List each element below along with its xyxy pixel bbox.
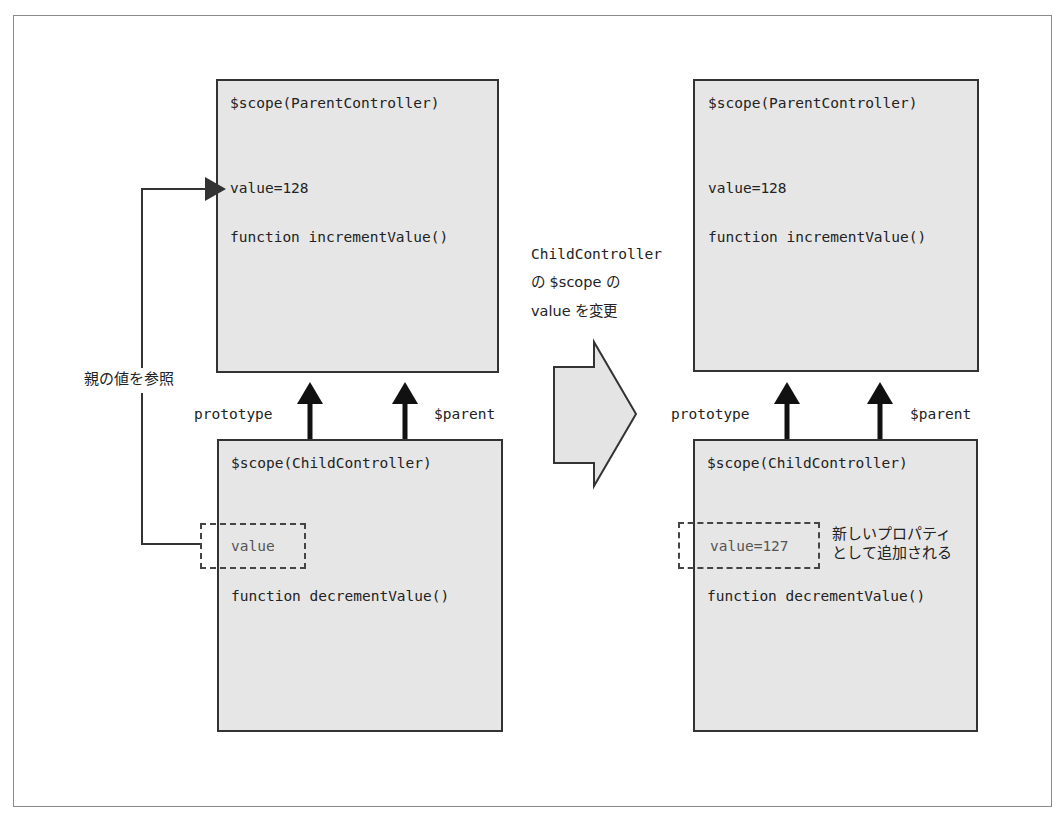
connectors-layer	[0, 0, 1054, 822]
reference-connector	[142, 177, 226, 544]
right-prototype-arrow-icon	[774, 382, 800, 439]
transition-arrow-icon	[554, 342, 636, 486]
left-parent-arrow-icon	[392, 382, 418, 439]
right-parent-arrow-icon	[867, 382, 893, 439]
reference-arrowhead-icon	[205, 177, 226, 201]
left-prototype-arrow-icon	[297, 382, 323, 439]
